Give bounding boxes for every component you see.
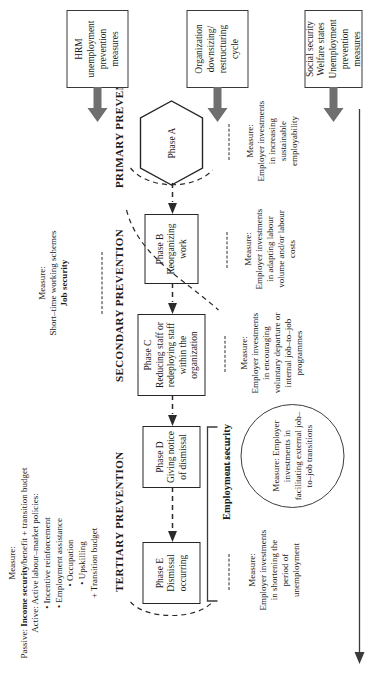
phase-box-d[interactable]: Phase D Giving notice of dismissal <box>142 426 200 488</box>
phase-d-label: Phase D <box>154 430 166 484</box>
job-security-measure: Measure: Short–time working schemes Job … <box>36 188 69 378</box>
heading-secondary-prevention: SECONDARY PREVENTION <box>112 229 124 382</box>
top-measure-passive: Passive: Income security/benefit + trans… <box>18 444 30 682</box>
measure-phase-c: Measure: Employer investments in encoura… <box>238 310 304 396</box>
job-security-line: Short–time working schemes <box>47 188 58 378</box>
measure-c-connector <box>224 336 225 372</box>
phase-e-label: Phase E <box>154 546 166 600</box>
top-measure-lead: Measure: <box>6 444 18 682</box>
top-measure-active: Active: Active labour–market policies: <box>29 444 41 682</box>
source-social-security-text: Social security Welfare states Unemploym… <box>304 14 363 84</box>
phase-e-desc: Dismissal occurring <box>165 546 188 600</box>
income-security-bold: Income security <box>18 565 28 626</box>
phase-box-c[interactable]: Phase C Reducing staff or redeploying st… <box>137 314 205 396</box>
measure-e-connector <box>228 554 229 590</box>
employment-security-bracket <box>206 426 218 602</box>
measure-b-connector <box>226 232 227 268</box>
job-security-connector <box>101 252 102 314</box>
source-box-social-security[interactable]: Social security Welfare states Unemploym… <box>304 10 362 88</box>
measure-a-connector <box>228 124 229 160</box>
arrow-organization-up <box>206 86 228 122</box>
measure-c-lead: Measure: <box>238 310 249 396</box>
primary-group-brace <box>128 166 214 196</box>
measure-e-body: Employer investments in shortening the p… <box>257 530 300 611</box>
measure-a-body: Employer investments in increasing susta… <box>255 101 298 182</box>
tertiary-group-brace <box>128 600 214 626</box>
measure-phase-b: Measure: Employer investments in adaptin… <box>242 208 297 290</box>
phase-d-desc: Giving notice of dismissal <box>165 430 188 484</box>
arrow-social-security-up <box>322 86 344 122</box>
phase-box-e[interactable]: Phase E Dismissal occurring <box>142 542 200 604</box>
measure-phase-a: Measure: Employer investments in increas… <box>244 100 299 182</box>
measure-phase-d-ellipse: Measure: Employer investments in facilit… <box>240 404 344 508</box>
bullet-upskilling: Upskilling <box>76 444 88 682</box>
measure-e-lead: Measure: <box>246 528 257 612</box>
top-measure-bullets: Incentive reinforcement Employment assis… <box>41 444 99 682</box>
arrow-hrm-up <box>86 86 108 122</box>
phase-c-label: Phase C <box>142 318 154 392</box>
measure-c-body: Employer investments in encouraging volu… <box>249 313 303 394</box>
measure-a-lead: Measure: <box>244 100 255 182</box>
job-security-lead: Measure: <box>36 188 47 378</box>
phase-a-label: Phase A <box>166 128 176 159</box>
diagram-canvas: Measure: Passive: Income security/benefi… <box>0 0 371 688</box>
source-box-organization-cycle[interactable]: Organization downsizing/ restructuring c… <box>186 10 248 88</box>
source-box-hrm[interactable]: HRM unemployment prevention measures <box>66 10 128 88</box>
bullet-transition-budget: + Transition budget <box>88 444 100 682</box>
measure-phase-e: Measure: Employer investments in shorten… <box>246 528 301 612</box>
bullet-occupation: Occupation <box>64 444 76 682</box>
source-organization-text: Organization downsizing/ restructuring c… <box>193 14 240 84</box>
measure-b-body: Employer investments in adapting labour … <box>253 209 296 290</box>
measure-b-lead: Measure: <box>242 208 253 290</box>
measure-d-lead: Measure: <box>270 458 280 492</box>
phase-c-desc: Reducing staff or redeploying staff with… <box>154 318 200 392</box>
timeline-axis-arrow <box>352 108 366 664</box>
source-hrm-text: HRM unemployment prevention measures <box>73 14 120 84</box>
top-measure-block: Measure: Passive: Income security/benefi… <box>6 444 100 682</box>
flow-arrow-c-to-d <box>166 394 178 426</box>
heading-tertiary-prevention: TERTIARY PREVENTION <box>112 451 124 592</box>
flow-arrow-d-to-e <box>166 486 178 542</box>
bullet-incentive: Incentive reinforcement <box>41 444 53 682</box>
measure-d-connector <box>228 438 229 474</box>
secondary-group-brace <box>124 208 220 312</box>
job-security-bold: Job security <box>58 260 68 307</box>
bullet-employment-assistance: Employment assistance <box>53 444 65 682</box>
